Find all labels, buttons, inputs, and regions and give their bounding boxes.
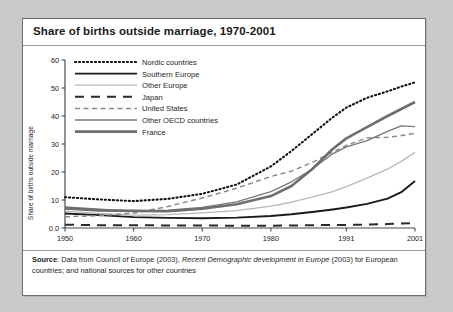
- chart-legend: Nordic countriesSouthern EuropeOther Eur…: [75, 58, 218, 137]
- svg-text:1991: 1991: [338, 234, 354, 243]
- svg-text:1970: 1970: [194, 234, 210, 243]
- source-divider: [23, 250, 425, 251]
- legend-label: Other OECD countries: [142, 116, 218, 125]
- chart-card: Share of births outside marriage, 1970-2…: [22, 18, 426, 296]
- svg-text:2001: 2001: [407, 234, 423, 243]
- source-title: Recent Demographic development in Europe: [182, 255, 330, 264]
- source-note: Source: Data from Council of Europe (200…: [32, 255, 416, 276]
- line-chart: 0.0102030405060195019601970198019912001N…: [23, 46, 425, 250]
- svg-text:0.0: 0.0: [49, 224, 59, 233]
- svg-text:60: 60: [51, 56, 59, 65]
- legend-label: Japan: [142, 93, 163, 102]
- svg-text:1950: 1950: [57, 234, 73, 243]
- source-label: Source: [32, 255, 57, 264]
- series-line: [65, 223, 415, 226]
- svg-text:50: 50: [51, 84, 59, 93]
- series-line: [65, 102, 415, 211]
- svg-text:1980: 1980: [263, 234, 279, 243]
- legend-label: Southern Europe: [142, 70, 199, 79]
- source-text-a: : Data from Council of Europe (2003),: [57, 255, 182, 264]
- svg-text:20: 20: [51, 168, 59, 177]
- svg-text:40: 40: [51, 112, 59, 121]
- legend-label: Nordic countries: [142, 58, 197, 67]
- legend-label: United States: [142, 104, 188, 113]
- svg-text:1960: 1960: [126, 234, 142, 243]
- svg-text:30: 30: [51, 140, 59, 149]
- series-line: [65, 126, 415, 211]
- legend-label: France: [142, 128, 166, 137]
- page-title: Share of births outside marriage, 1970-2…: [33, 25, 276, 37]
- plot-area: Share of births outside marriage 0.01020…: [23, 46, 425, 250]
- legend-label: Other Europe: [142, 81, 188, 90]
- svg-text:10: 10: [51, 196, 59, 205]
